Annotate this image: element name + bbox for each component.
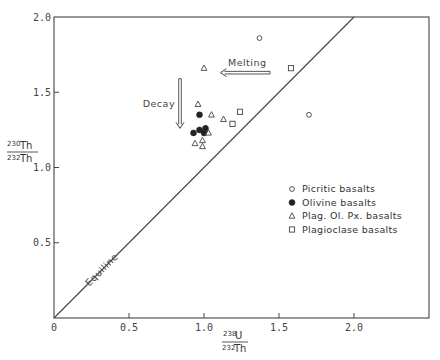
legend-label: Olivine basalts bbox=[302, 197, 376, 208]
series-plagioclase-basalts bbox=[230, 66, 294, 127]
legend: Picritic basaltsOlivine basaltsPlag. Ol.… bbox=[289, 183, 402, 235]
legend-label: Plag. Ol. Px. basalts bbox=[302, 210, 402, 221]
x-tick-label: 1.5 bbox=[270, 322, 288, 333]
y-label-num-base: Th bbox=[19, 140, 32, 151]
data-point bbox=[195, 101, 201, 106]
data-point bbox=[257, 36, 262, 41]
y-axis-ticks: 0.51.01.52.0 bbox=[33, 12, 59, 249]
data-point bbox=[200, 143, 206, 148]
x-tick-label: 0.5 bbox=[120, 322, 138, 333]
data-point bbox=[237, 109, 242, 114]
annotations: MeltingDecay bbox=[143, 57, 270, 129]
open-square-icon bbox=[289, 227, 294, 232]
melting-label: Melting bbox=[228, 57, 267, 68]
y-tick-label: 0.5 bbox=[33, 237, 51, 248]
y-tick-label: 1.5 bbox=[33, 87, 51, 98]
series-picritic-basalts bbox=[257, 36, 311, 118]
open-circle-icon bbox=[290, 187, 295, 192]
x-label-den-base: Th bbox=[233, 343, 246, 354]
x-axis-ticks: 00.51.01.52.0 bbox=[51, 313, 363, 333]
x-tick-label: 2.0 bbox=[345, 322, 363, 333]
scatter-chart: 00.51.01.52.0 0.51.01.52.0 Equiline Melt… bbox=[0, 0, 440, 360]
y-label-den-base: Th bbox=[19, 153, 32, 164]
series-plag-ol-px-basalts bbox=[192, 65, 226, 149]
data-point bbox=[307, 112, 312, 117]
data-point bbox=[201, 65, 207, 70]
data-point bbox=[200, 137, 206, 142]
melting-arrow: Melting bbox=[221, 57, 271, 77]
x-tick-label: 1.0 bbox=[195, 322, 213, 333]
decay-label: Decay bbox=[143, 98, 175, 109]
y-axis-label: 230 Th 232 Th bbox=[7, 140, 38, 164]
equiline-label: Equiline bbox=[83, 251, 120, 288]
equiline: Equiline bbox=[54, 17, 354, 318]
data-point bbox=[288, 66, 293, 71]
legend-item: Plag. Ol. Px. basalts bbox=[289, 210, 402, 221]
legend-label: Picritic basalts bbox=[302, 183, 375, 194]
data-point bbox=[197, 112, 203, 118]
x-tick-label: 0 bbox=[51, 322, 57, 333]
data-point bbox=[221, 116, 227, 121]
x-label-num-base: U bbox=[235, 330, 242, 341]
series-olivine-basalts bbox=[191, 112, 209, 136]
x-axis-label: 238 U 232 Th bbox=[222, 330, 248, 354]
decay-arrow: Decay bbox=[143, 79, 184, 129]
legend-item: Plagioclase basalts bbox=[289, 224, 397, 235]
y-tick-label: 1.0 bbox=[33, 162, 51, 173]
data-point bbox=[230, 121, 235, 126]
y-label-num-sup: 230 bbox=[7, 140, 20, 148]
data-point bbox=[191, 130, 197, 136]
y-label-den-sup: 232 bbox=[7, 154, 20, 162]
legend-item: Picritic basalts bbox=[290, 183, 376, 194]
legend-label: Plagioclase basalts bbox=[302, 224, 398, 235]
data-point bbox=[209, 112, 215, 117]
data-point bbox=[192, 140, 198, 145]
y-tick-label: 2.0 bbox=[33, 12, 51, 23]
open-triangle-icon bbox=[289, 213, 295, 218]
legend-item: Olivine basalts bbox=[289, 197, 376, 208]
data-points bbox=[191, 36, 312, 149]
filled-circle-icon bbox=[289, 200, 295, 206]
